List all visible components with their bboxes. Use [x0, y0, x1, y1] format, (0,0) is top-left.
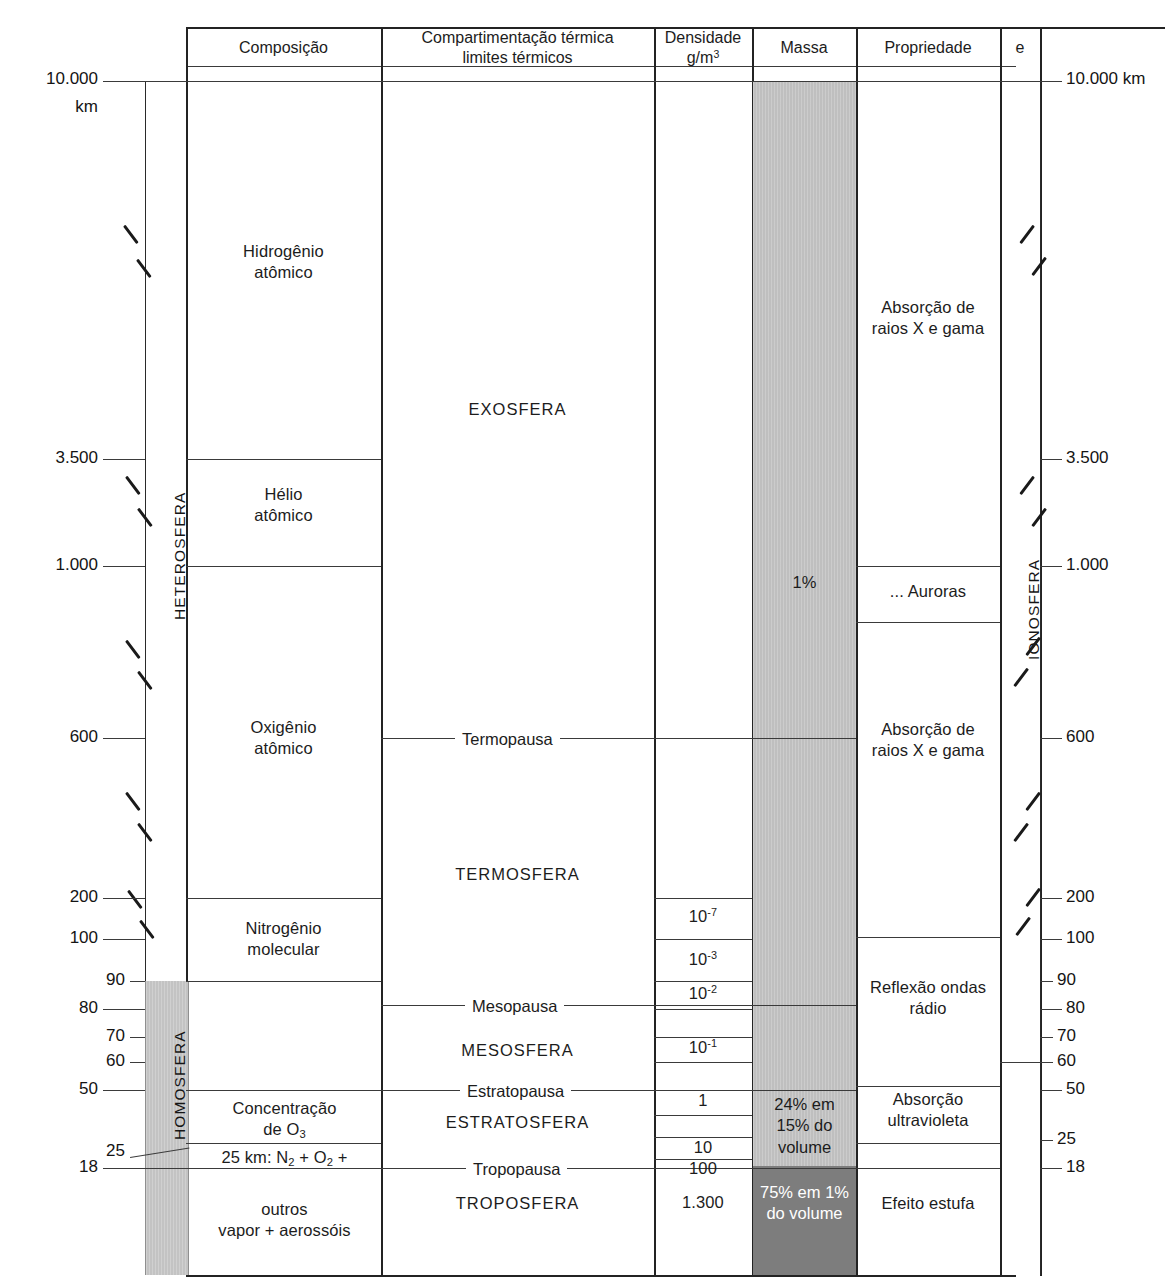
composicao-nitrogenio: Nitrogênio molecular [186, 915, 381, 963]
axis-right-tick-80: 80 [1066, 999, 1085, 1016]
axis-left-tick-3500: 3.500 [0, 449, 98, 466]
axis-left-tick-line [103, 566, 145, 567]
axis-right-tick-90: 90 [1057, 971, 1076, 988]
axis-left-tick-line [103, 1090, 145, 1091]
axis-right-tick-100: 100 [1066, 929, 1094, 946]
header-e: e [1000, 30, 1040, 66]
propriedade-line1: Absorção de [881, 719, 975, 740]
axis-left-tick-line [103, 459, 145, 460]
axis-left-tick-18: 18 [0, 1158, 98, 1175]
propriedade-divider [856, 622, 1000, 623]
axis-right-tick-line [1040, 1009, 1062, 1010]
mass-tropo-line1: 75% em 1% [760, 1182, 849, 1203]
composicao-outros-line1: outros [261, 1199, 307, 1220]
axis-left-unit-km: km [0, 98, 98, 115]
propriedade-absorcao-uv: Absorção ultravioleta [856, 1086, 1000, 1134]
axis-right-tick-18: 18 [1066, 1158, 1085, 1175]
axis-left-tick-line [103, 1168, 187, 1169]
axis-right-tick-line [1000, 1062, 1053, 1063]
header-compartimentacao-line1: Compartimentação térmica [421, 28, 613, 48]
mass-strato-line1: 24% em [774, 1094, 835, 1115]
propriedade-efeito-estufa: Efeito estufa [856, 1192, 1000, 1216]
densidade-value: 10-7 [654, 905, 752, 929]
axis-right-tick-line [1040, 1168, 1062, 1169]
axis-break-mark [136, 259, 151, 278]
composicao-oxigenio: Oxigênio atômico [186, 714, 381, 762]
densidade-divider [654, 1115, 752, 1116]
composicao-ozonio-line1: Concentração [233, 1098, 337, 1119]
mass-value-troposphere: 75% em 1% do volume [753, 1172, 856, 1234]
header-propriedade: Propriedade [856, 30, 1000, 66]
mass-value-1percent: 1% [753, 570, 856, 596]
axis-left-tick-90: 90 [0, 971, 125, 988]
axis-left-tick-line [103, 1009, 145, 1010]
axis-break-mark [1031, 257, 1046, 276]
propriedade-divider [856, 1168, 1000, 1169]
densidade-divider [654, 1009, 752, 1010]
propriedade-auroras: ... Auroras [856, 580, 1000, 604]
densidade-divider [654, 1062, 752, 1063]
composicao-helio-line2: atômico [254, 505, 312, 526]
axis-left-tick-line [103, 898, 145, 899]
header-densidade: Densidade g/m3 [654, 28, 752, 68]
propriedade-reflexao-ondas: Reflexão ondas rádio [856, 974, 1000, 1022]
atmosphere-diagram: Composição Compartimentação térmica limi… [0, 0, 1165, 1287]
axis-right-tick-line [1040, 939, 1062, 940]
table-bottom-border [186, 1275, 1016, 1277]
axis-break-mark [125, 476, 140, 495]
axis-right-tick-50: 50 [1066, 1080, 1085, 1097]
axis-right-tick-line [1040, 459, 1062, 460]
axis-left-tick-1000: 1.000 [0, 556, 98, 573]
col-border-propriedade-right [1000, 27, 1002, 1276]
axis-left-tick-100: 100 [0, 929, 98, 946]
densidade-value: 1.300 [654, 1191, 752, 1215]
axis-break-mark [1015, 917, 1030, 936]
composicao-25km: 25 km: N2 + O2 + [188, 1146, 381, 1170]
axis-left-tick-50: 50 [0, 1080, 98, 1097]
axis-break-mark [125, 792, 140, 811]
mass-strato-line2: 15% do [777, 1115, 833, 1136]
composicao-divider [186, 898, 381, 899]
axis-right-tick-line [1040, 981, 1053, 982]
axis-break-mark [1019, 225, 1034, 244]
camada-tropopausa: Tropopausa [466, 1156, 567, 1182]
axis-left-tick-line [130, 981, 145, 982]
axis-left-tick-25: 25 [0, 1142, 125, 1159]
col-border-composicao-right [381, 27, 383, 1276]
header-compartimentacao: Compartimentação térmica limites térmico… [381, 28, 654, 68]
propriedade-absorcao-raiosx-1: Absorção de raios X e gama [856, 294, 1000, 342]
axis-right-tick-line [1040, 738, 1062, 739]
axis-right-tick-200: 200 [1066, 888, 1094, 905]
axis-break-mark [127, 890, 142, 909]
densidade-divider [654, 939, 752, 940]
densidade-value: 10-2 [654, 982, 752, 1006]
axis-right-tick-line [1040, 898, 1062, 899]
composicao-ozonio-line2: de O3 [263, 1119, 306, 1141]
composicao-helio-line1: Hélio [264, 484, 302, 505]
axis-break-mark [1013, 668, 1028, 687]
camada-estratopausa: Estratopausa [460, 1078, 571, 1104]
propriedade-line2: raios X e gama [872, 318, 984, 339]
camada-mesosfera: MESOSFERA [381, 1037, 654, 1063]
axis-right-tick-600: 600 [1066, 728, 1094, 745]
left-axis-line [145, 81, 146, 981]
axis-break-mark [125, 640, 140, 659]
propriedade-line2: ultravioleta [888, 1110, 969, 1131]
label-homosfera: HOMOSFERA [172, 1030, 188, 1140]
axis-left-tick-70: 70 [0, 1027, 125, 1044]
axis-right-tick-10000: 10.000 km [1066, 70, 1145, 87]
densidade-value: 1 [654, 1089, 752, 1113]
axis-break-mark [139, 920, 154, 939]
composicao-divider [186, 459, 381, 460]
axis-left-tick-line [130, 1037, 145, 1038]
composicao-nitrogenio-line1: Nitrogênio [245, 918, 321, 939]
axis-right-tick-line [1040, 1037, 1053, 1038]
axis-left-tick-80: 80 [0, 999, 98, 1016]
densidade-value: 10-1 [654, 1036, 752, 1060]
camada-exosfera: EXOSFERA [381, 396, 654, 422]
propriedade-line1: Absorção de [881, 297, 975, 318]
propriedade-line1: Absorção [893, 1089, 964, 1110]
header-massa: Massa [752, 30, 856, 66]
densidade-divider [654, 898, 752, 899]
composicao-ozonio: Concentração de O3 [188, 1096, 381, 1144]
